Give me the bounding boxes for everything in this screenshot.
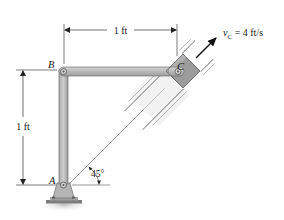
link-ab — [59, 70, 68, 184]
pin-a — [61, 182, 67, 188]
angle-label: 45° — [91, 169, 105, 179]
pin-b — [61, 69, 67, 75]
horizontal-dimension: 1 ft — [64, 24, 177, 64]
vertical-dimension: 1 ft — [16, 70, 57, 185]
velocity-label: vC = 4 ft/s — [223, 27, 263, 41]
point-b-label: B — [48, 59, 55, 70]
horizontal-dimension-label: 1 ft — [114, 25, 128, 36]
point-a-label: A — [48, 175, 56, 186]
slider-guide — [119, 36, 219, 136]
point-c-label: C — [177, 61, 185, 72]
linkage-diagram: 1 ft 1 ft 45° — [0, 0, 284, 220]
vertical-dimension-label: 1 ft — [16, 121, 30, 132]
velocity-value: = 4 ft/s — [232, 27, 263, 38]
velocity-arrow — [196, 38, 216, 58]
